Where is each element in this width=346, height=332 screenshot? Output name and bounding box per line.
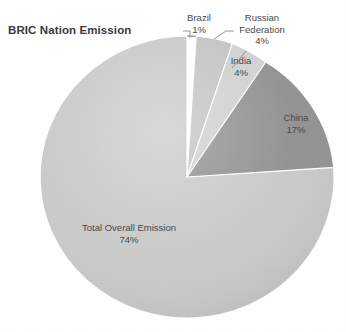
pie-label-china-value: 17%	[275, 124, 317, 136]
pie-label-brazil-name: Brazil	[176, 12, 222, 24]
pie-label-russian-federation: Russian Federation 4%	[224, 12, 300, 47]
pie-label-total-overall-emission-name: Total Overall Emission	[82, 222, 176, 234]
pie-label-india: India 4%	[220, 55, 262, 78]
pie-label-total-overall-emission: Total Overall Emission 74%	[82, 222, 176, 245]
pie-label-india-name: India	[220, 55, 262, 67]
pie-shading-overlay	[40, 36, 334, 318]
pie-label-china: China 17%	[275, 112, 317, 135]
pie-label-india-value: 4%	[220, 67, 262, 79]
pie-chart-figure: BRIC Nation Emission	[0, 0, 346, 332]
pie-label-brazil: Brazil 1%	[176, 12, 222, 35]
pie-label-brazil-value: 1%	[176, 24, 222, 36]
pie-label-russian-federation-value: 4%	[224, 35, 300, 47]
pie-graphic	[0, 0, 346, 332]
pie-label-total-overall-emission-value: 74%	[82, 234, 176, 246]
pie-label-china-name: China	[275, 112, 317, 124]
pie-label-russian-federation-name: Russian Federation	[224, 12, 300, 35]
